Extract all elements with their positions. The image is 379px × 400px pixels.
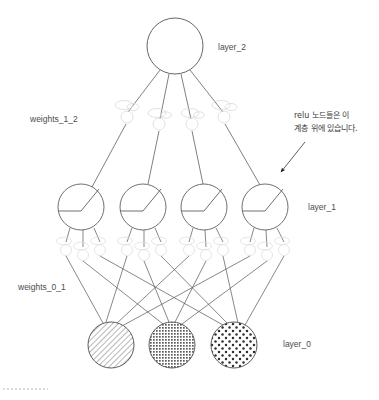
label-layer-2: layer_2 [218,42,246,52]
layer0-node-hatched [88,322,134,368]
label-weights-1-2: weights_1_2 [29,114,78,124]
edge [192,131,203,184]
edges-weights12-to-layer1 [92,124,260,187]
layer1-node [58,184,104,230]
annotation-line-2: 계층 위에 있습니다. [294,123,358,133]
edge [225,124,260,185]
layer1-node [181,184,227,230]
label-layer-0: layer_0 [283,339,311,349]
annotation-line-1: relu 노드들은 이 [294,110,349,120]
layer1-node [242,184,288,230]
weights-1-2-nodes [115,101,237,131]
weight-node [91,237,106,255]
weight-node [181,109,205,131]
edge [148,131,159,184]
neural-network-diagram: layer_2 weights_1_2 layer_1 weights_0_1 … [0,0,379,400]
label-layer-1: layer_1 [308,202,336,212]
layer0-nodes [88,322,257,368]
edges-weights01-to-layer0 [66,256,284,326]
annotation-arrow [281,142,305,172]
weight-node [258,242,273,260]
layer1-node [120,184,166,230]
weights-0-1-nodes [57,237,290,260]
weight-node [152,237,167,255]
label-weights-0-1: weights_0_1 [17,282,66,292]
edges-layer2-to-weights12 [128,70,223,119]
layer2-node [147,18,203,74]
weight-node [57,237,72,255]
layer1-nodes [58,184,288,230]
weight-node [115,101,139,124]
diagram-canvas: layer_2 weights_1_2 layer_1 weights_0_1 … [0,0,379,400]
weight-node [212,101,237,124]
edge [190,70,223,112]
weight-node [148,109,172,131]
weight-node [118,237,133,255]
layer2-node-group [147,18,203,74]
edge [92,124,126,187]
weight-node [275,237,290,255]
weight-node [214,237,229,255]
edge [181,74,191,119]
weight-node [74,242,89,260]
weight-node [241,237,256,255]
layer0-node-dotted [211,322,257,368]
weight-node [135,242,150,260]
layer0-node-crosshatched [149,322,195,368]
weight-node [197,242,212,260]
weight-node [180,237,195,255]
